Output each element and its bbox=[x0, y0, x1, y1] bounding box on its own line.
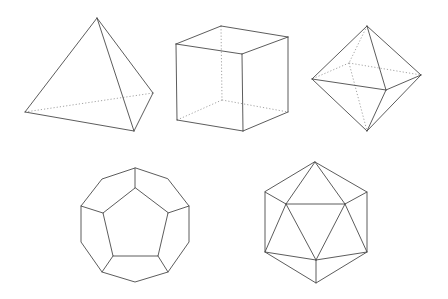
hidden-edge bbox=[177, 100, 222, 120]
visible-edge bbox=[176, 44, 242, 54]
visible-edge bbox=[316, 252, 367, 260]
hidden-edge bbox=[221, 26, 222, 100]
tetrahedron bbox=[25, 18, 153, 131]
visible-edge bbox=[345, 192, 367, 204]
visible-edge bbox=[242, 37, 288, 54]
visible-edge bbox=[315, 162, 345, 204]
visible-edge bbox=[265, 192, 286, 204]
hidden-edge bbox=[25, 93, 153, 112]
visible-edge bbox=[134, 93, 153, 131]
visible-edge bbox=[312, 26, 367, 79]
hidden-edge bbox=[312, 63, 349, 79]
hidden-edge bbox=[222, 100, 288, 112]
platonic-solids-figure bbox=[0, 0, 448, 299]
visible-edge bbox=[312, 79, 386, 90]
visible-edge bbox=[97, 18, 134, 131]
visible-edge bbox=[176, 44, 177, 120]
visible-edge bbox=[386, 75, 421, 90]
octahedron bbox=[312, 26, 421, 131]
visible-edge bbox=[25, 112, 134, 131]
inner-face bbox=[103, 188, 168, 256]
visible-edge bbox=[345, 204, 367, 252]
visible-edge bbox=[286, 162, 315, 204]
hidden-edge bbox=[349, 63, 367, 131]
dodecahedron bbox=[81, 168, 189, 282]
visible-edge bbox=[367, 26, 386, 90]
connecting-edge bbox=[81, 206, 103, 213]
icosahedron bbox=[265, 162, 367, 283]
visible-edge bbox=[367, 90, 386, 131]
visible-edge bbox=[265, 204, 286, 252]
connecting-edge bbox=[158, 256, 168, 272]
connecting-edge bbox=[102, 256, 113, 272]
visible-edge bbox=[316, 204, 345, 260]
connecting-edge bbox=[168, 206, 189, 213]
visible-edge bbox=[286, 204, 316, 260]
visible-edge bbox=[265, 252, 316, 260]
visible-edge bbox=[243, 112, 288, 131]
visible-edge bbox=[97, 18, 153, 93]
visible-edge bbox=[176, 26, 221, 44]
visible-edge bbox=[25, 18, 97, 112]
visible-edge bbox=[367, 75, 421, 131]
visible-edge bbox=[242, 54, 243, 131]
visible-edge bbox=[177, 120, 243, 131]
hidden-edge bbox=[349, 26, 367, 63]
cube bbox=[176, 26, 288, 131]
visible-edge bbox=[312, 79, 367, 131]
visible-edge bbox=[221, 26, 288, 37]
